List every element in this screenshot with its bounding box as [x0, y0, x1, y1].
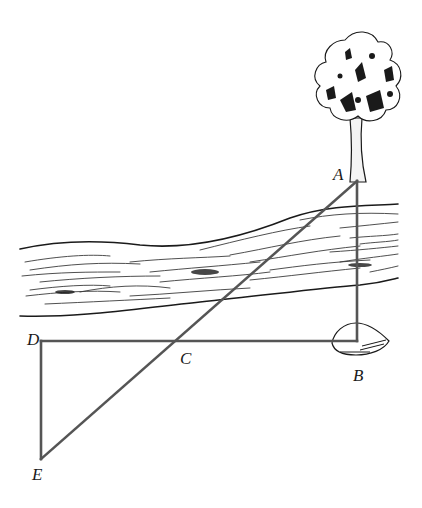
rock — [332, 323, 389, 355]
river — [20, 204, 398, 316]
triangle-lines — [41, 181, 357, 459]
river-width-diagram: A B C D E — [0, 0, 422, 508]
label-D: D — [27, 331, 39, 348]
label-B: B — [353, 367, 363, 384]
label-C: C — [180, 350, 191, 367]
label-A: A — [333, 166, 343, 183]
label-E: E — [32, 466, 42, 483]
tree — [315, 32, 401, 182]
segment-AE — [41, 181, 357, 459]
